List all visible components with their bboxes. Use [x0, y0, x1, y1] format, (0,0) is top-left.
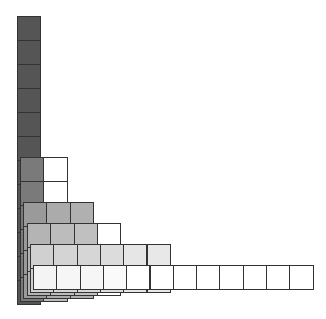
grid-cell	[33, 265, 57, 290]
grid-cell	[17, 88, 41, 113]
grid-cell	[126, 265, 150, 290]
grid-cell	[266, 265, 290, 290]
grid-cell	[289, 265, 313, 290]
grid-cell	[17, 112, 41, 137]
grid-cell	[17, 40, 41, 65]
grid-cell	[80, 265, 104, 290]
grid-cell	[150, 265, 174, 290]
grid-cell	[173, 265, 197, 290]
grid-cell	[43, 157, 67, 182]
grid-cell	[20, 157, 44, 182]
grid-cell	[17, 64, 41, 89]
grid-cell	[103, 265, 127, 290]
grid-cell	[219, 265, 243, 290]
grid-cell	[17, 16, 41, 41]
staircase-grid-diagram	[0, 0, 326, 319]
grid-cell	[56, 265, 80, 290]
grid-cell	[243, 265, 267, 290]
grid-cell	[196, 265, 220, 290]
